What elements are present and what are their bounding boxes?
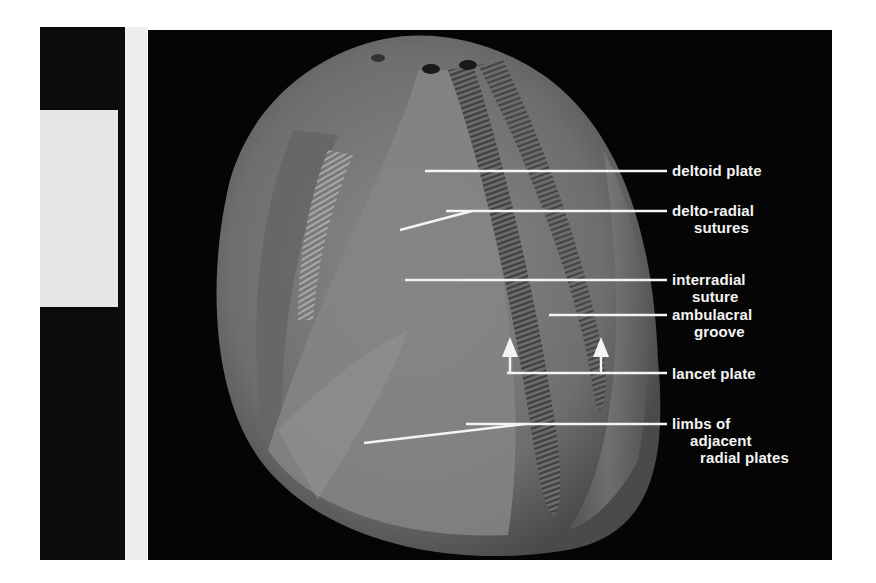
label-text: limbs of <box>672 415 789 432</box>
left-scale-strip <box>40 27 125 560</box>
spiracle-hole <box>459 60 477 70</box>
spiracle-hole <box>422 64 440 74</box>
fossil-photo-panel: deltoid plate delto-radial sutures inter… <box>148 30 832 560</box>
label-deltoid-plate: deltoid plate <box>672 162 762 179</box>
separator-bar <box>125 27 147 560</box>
label-text: groove <box>672 323 752 340</box>
label-text: sutures <box>672 219 754 236</box>
label-text: delto-radial <box>672 202 754 219</box>
label-text: deltoid plate <box>672 162 762 179</box>
label-delto-radial-sutures: delto-radial sutures <box>672 202 754 236</box>
label-text: radial plates <box>672 449 789 466</box>
label-lancet-plate: lancet plate <box>672 365 756 382</box>
label-text: adjacent <box>672 432 789 449</box>
scale-light-block <box>40 110 118 307</box>
label-text: lancet plate <box>672 365 756 382</box>
label-text: suture <box>672 288 746 305</box>
label-interradial-suture: interradial suture <box>672 271 746 305</box>
label-ambulacral-groove: ambulacral groove <box>672 306 752 340</box>
label-limbs-of-adjacent-radial-plates: limbs of adjacent radial plates <box>672 415 789 466</box>
label-text: ambulacral <box>672 306 752 323</box>
spiracle-hole <box>371 54 385 62</box>
label-text: interradial <box>672 271 746 288</box>
